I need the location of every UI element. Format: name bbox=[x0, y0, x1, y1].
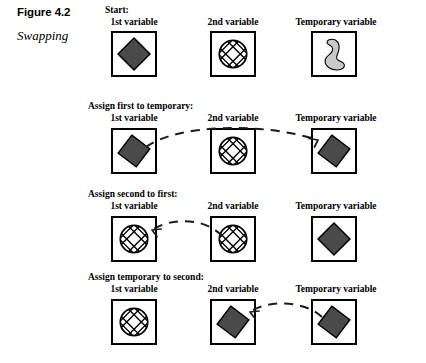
figure-number: Figure 4.2 bbox=[17, 6, 95, 19]
variable-box-first-row1 bbox=[111, 31, 157, 77]
dark-diamond-icon bbox=[313, 218, 355, 260]
variable-box-first-row3 bbox=[111, 216, 157, 262]
dark-diamond-icon bbox=[313, 301, 355, 343]
column-label-second-row4: 2nd variable bbox=[204, 284, 262, 294]
step-label-start: Start: bbox=[105, 5, 129, 15]
figure-canvas: Figure 4.2 Swapping Start: 1st variable … bbox=[0, 0, 426, 363]
hatched-circle-icon bbox=[212, 33, 254, 75]
dark-diamond-icon bbox=[313, 130, 355, 172]
step-label-assign-second-to-first: Assign second to first: bbox=[88, 189, 177, 199]
variable-box-temp-row2 bbox=[311, 128, 357, 174]
gray-blob-icon bbox=[313, 33, 355, 75]
column-label-temp-row2: Temporary variable bbox=[292, 113, 380, 123]
hatched-circle-icon bbox=[113, 218, 155, 260]
variable-box-second-row1 bbox=[210, 31, 256, 77]
variable-box-temp-row4 bbox=[311, 299, 357, 345]
hatched-circle-icon bbox=[113, 301, 155, 343]
column-label-first-row4: 1st variable bbox=[105, 284, 163, 294]
variable-box-temp-row1 bbox=[311, 31, 357, 77]
dark-diamond-icon bbox=[113, 33, 155, 75]
variable-box-second-row4 bbox=[210, 299, 256, 345]
figure-caption: Figure 4.2 Swapping bbox=[17, 6, 95, 43]
column-label-first-row1: 1st variable bbox=[105, 17, 163, 27]
column-label-second-row2: 2nd variable bbox=[204, 113, 262, 123]
column-label-second-row1: 2nd variable bbox=[204, 17, 262, 27]
figure-title: Swapping bbox=[17, 28, 95, 43]
column-label-temp-row1: Temporary variable bbox=[292, 17, 380, 27]
column-label-second-row3: 2nd variable bbox=[204, 201, 262, 211]
column-label-temp-row3: Temporary variable bbox=[292, 201, 380, 211]
column-label-first-row3: 1st variable bbox=[105, 201, 163, 211]
variable-box-first-row2 bbox=[111, 128, 157, 174]
variable-box-temp-row3 bbox=[311, 216, 357, 262]
column-label-temp-row4: Temporary variable bbox=[292, 284, 380, 294]
dark-diamond-icon bbox=[212, 301, 254, 343]
hatched-circle-icon bbox=[212, 218, 254, 260]
step-label-assign-first-to-temporary: Assign first to temporary: bbox=[88, 101, 193, 111]
step-label-assign-temporary-to-second: Assign temporary to second: bbox=[88, 272, 204, 282]
variable-box-second-row2 bbox=[210, 128, 256, 174]
variable-box-first-row4 bbox=[111, 299, 157, 345]
variable-box-second-row3 bbox=[210, 216, 256, 262]
column-label-first-row2: 1st variable bbox=[105, 113, 163, 123]
hatched-circle-icon bbox=[212, 130, 254, 172]
dark-diamond-icon bbox=[113, 130, 155, 172]
